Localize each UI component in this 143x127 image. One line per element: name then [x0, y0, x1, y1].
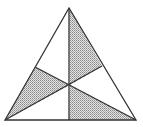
diagram-canvas	[0, 0, 143, 127]
shaded-region-upper-right	[69, 8, 102, 85]
shaded-region-left	[5, 67, 70, 120]
triangle-diagram	[0, 0, 143, 127]
